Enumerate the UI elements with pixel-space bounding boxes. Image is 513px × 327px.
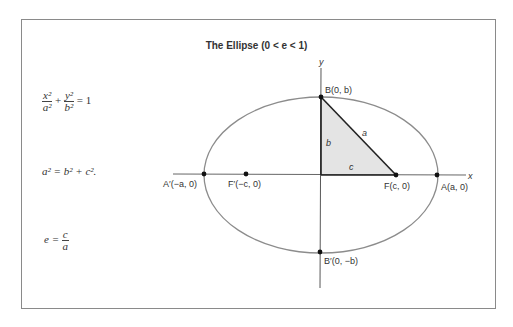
label-side-b: b [326, 138, 331, 148]
label-B: B(0, b) [325, 85, 352, 95]
label-A-prime: A′(−a, 0) [163, 179, 197, 189]
y-axis-label: y [318, 57, 324, 67]
point-F-prime [244, 172, 249, 177]
point-A [435, 173, 440, 178]
label-F-prime: F′(−c, 0) [228, 179, 261, 189]
x-axis [173, 174, 466, 175]
point-B-prime [318, 250, 323, 255]
point-B [319, 95, 324, 100]
point-F [394, 173, 399, 178]
label-side-a: a [362, 128, 367, 138]
point-A-prime [202, 172, 207, 177]
x-axis-label: x [467, 171, 473, 181]
ellipse-diagram: y x B(0, b) B′(0, −b) A′(−a, 0) F′(−c, 0… [0, 0, 513, 327]
label-B-prime: B′(0, −b) [324, 256, 358, 266]
label-F: F(c, 0) [384, 181, 410, 191]
label-side-c: c [349, 162, 354, 172]
label-A: A(a, 0) [441, 182, 468, 192]
